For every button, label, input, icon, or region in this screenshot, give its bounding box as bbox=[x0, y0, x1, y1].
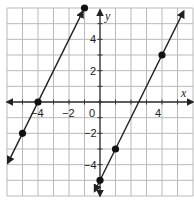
data-point bbox=[112, 145, 119, 152]
coordinate-plane: xy−4−20442−2−4 bbox=[0, 0, 194, 201]
x-axis-label: x bbox=[180, 86, 187, 100]
x-tick-label: 0 bbox=[89, 107, 95, 119]
y-tick-label: 4 bbox=[90, 33, 96, 45]
x-tick-label: −2 bbox=[62, 107, 75, 119]
y-tick-label: 2 bbox=[90, 65, 96, 77]
data-point bbox=[96, 177, 103, 184]
data-point bbox=[158, 51, 165, 58]
y-tick-label: −2 bbox=[84, 127, 97, 139]
data-point bbox=[19, 130, 26, 137]
line-1 bbox=[8, 11, 83, 163]
y-axis-label: y bbox=[104, 9, 111, 23]
y-tick-label: −4 bbox=[84, 159, 97, 171]
data-point bbox=[81, 4, 88, 11]
data-point bbox=[34, 98, 41, 105]
x-tick-label: 4 bbox=[155, 107, 161, 119]
